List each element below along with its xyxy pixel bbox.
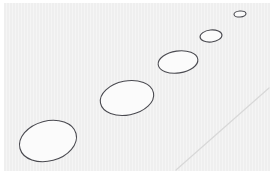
diagram-canvas xyxy=(0,0,273,174)
diagram-svg xyxy=(0,0,273,174)
